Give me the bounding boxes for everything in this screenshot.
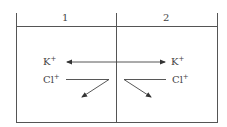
membrane-diagram xyxy=(0,0,227,127)
container-outline xyxy=(16,13,218,123)
k-right-charge: + xyxy=(178,55,184,63)
compartment-2-label: 2 xyxy=(163,13,169,23)
k-ion-left-label: K+ xyxy=(43,57,56,67)
compartment-1-label: 1 xyxy=(62,13,68,23)
cl-right-symbol: Cl xyxy=(172,74,183,85)
k-left-charge: + xyxy=(50,55,56,63)
cl-left-symbol: Cl xyxy=(43,74,54,85)
k-ion-right-label: K+ xyxy=(171,57,184,67)
cl-ion-left-label: Cl+ xyxy=(43,75,60,85)
cl-ion-right-label: Cl+ xyxy=(172,75,189,85)
cl-right-arrow xyxy=(124,80,166,98)
cl-left-arrow xyxy=(66,80,109,98)
cl-right-charge: + xyxy=(183,73,189,81)
cl-left-charge: + xyxy=(54,73,60,81)
